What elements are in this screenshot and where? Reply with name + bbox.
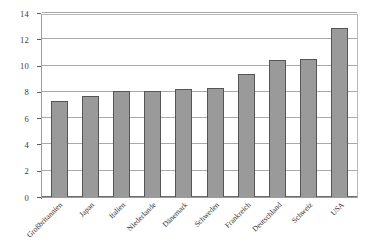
bar[interactable]	[331, 28, 348, 197]
bar-chart: 02468101214 GroßbritannienJapanItalienNi…	[0, 0, 369, 251]
bar-slot	[75, 15, 106, 197]
x-tick-label: Großbritannien	[26, 201, 64, 239]
y-tick-label-6: 6	[25, 115, 29, 124]
y-tick-label-12: 12	[20, 36, 29, 45]
category-slot: Schweiz	[293, 199, 324, 251]
category-slot: USA	[325, 199, 356, 251]
bar-slot	[262, 15, 293, 197]
gridline-14	[42, 12, 357, 13]
x-tick-label: Schweiz	[291, 201, 315, 225]
bar[interactable]	[207, 88, 224, 197]
x-tick-label: USA	[330, 201, 346, 217]
category-slot: Deutschland	[262, 199, 293, 251]
y-tick-label-10: 10	[20, 62, 29, 71]
x-axis-category-labels: GroßbritannienJapanItalienNiederlandeDän…	[41, 199, 358, 251]
bar-slot	[324, 15, 355, 197]
y-axis-ticks: 02468101214	[0, 14, 36, 198]
category-slot: Großbritannien	[43, 199, 74, 251]
x-tick-label: Italien	[108, 201, 127, 220]
y-tick-label-2: 2	[25, 167, 29, 176]
bar-slot	[168, 15, 199, 197]
bar-slot	[137, 15, 168, 197]
x-tick-label: Japan	[78, 201, 96, 219]
bars-layer	[42, 15, 357, 197]
bar-slot	[293, 15, 324, 197]
y-tick-label-0: 0	[25, 194, 29, 203]
bar-slot	[106, 15, 137, 197]
bar[interactable]	[269, 60, 286, 197]
y-tick-label-8: 8	[25, 89, 29, 98]
y-tick-label-4: 4	[25, 141, 29, 150]
bar[interactable]	[300, 59, 317, 197]
y-tick-label-14: 14	[20, 10, 29, 19]
plot-area	[41, 14, 358, 198]
bar[interactable]	[144, 91, 161, 197]
bar[interactable]	[82, 96, 99, 197]
bar[interactable]	[51, 101, 68, 197]
bar[interactable]	[238, 74, 255, 197]
bar[interactable]	[113, 91, 130, 197]
bar[interactable]	[175, 89, 192, 197]
bar-slot	[199, 15, 230, 197]
bar-slot	[231, 15, 262, 197]
category-slot: Japan	[74, 199, 105, 251]
bar-slot	[44, 15, 75, 197]
